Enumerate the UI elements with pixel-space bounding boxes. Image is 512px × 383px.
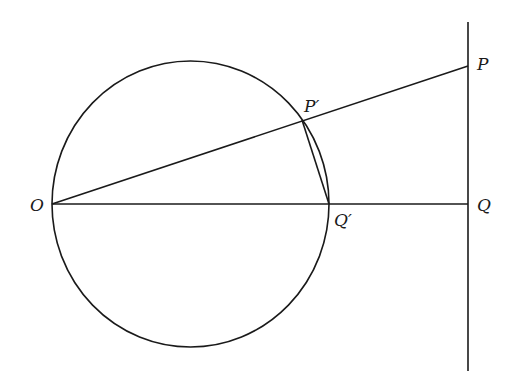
segment-pprime-qprime	[302, 120, 329, 204]
label-q: Q	[477, 195, 491, 215]
inversion-diagram: O P′ Q′ P Q	[0, 0, 512, 383]
label-p: P	[476, 54, 489, 74]
segment-o-p	[52, 66, 468, 204]
label-q-prime: Q′	[334, 210, 352, 230]
label-o: O	[30, 195, 44, 215]
label-p-prime: P′	[303, 96, 319, 116]
